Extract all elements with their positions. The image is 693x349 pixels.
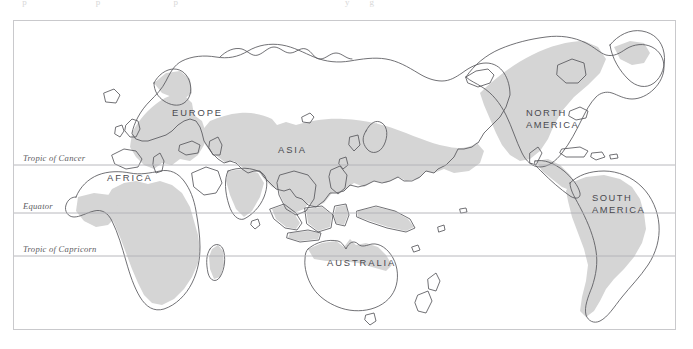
outline-siberia-coast <box>220 47 352 59</box>
latitude-label-tropic-of-cancer: Tropic of Cancer <box>23 153 86 163</box>
outline-pacific-island-2 <box>412 245 420 252</box>
continent-label-south-america-line1: SOUTH <box>592 192 632 203</box>
page-root: p p p y g <box>0 0 693 349</box>
outline-tasmania <box>365 313 376 325</box>
continent-label-asia: ASIA <box>278 144 307 155</box>
outline-new-zealand-south <box>415 291 432 313</box>
outline-sri-lanka <box>251 219 260 229</box>
world-map-figure: Tropic of Cancer Equator Tropic of Capri… <box>14 21 675 329</box>
outline-arabia <box>192 167 222 195</box>
outline-iceland <box>104 89 120 103</box>
continent-label-australia: AUSTRALIA <box>327 257 396 268</box>
continent-label-north-america-line2: AMERICA <box>526 119 579 130</box>
latitude-label-equator: Equator <box>22 201 53 211</box>
outline-cuba <box>560 147 588 157</box>
outline-pacific-island-1 <box>438 225 445 232</box>
latitude-label-tropic-of-capricorn: Tropic of Capricorn <box>23 244 97 254</box>
outline-pacific-island-3 <box>460 208 467 213</box>
shading-west-africa <box>76 193 118 227</box>
outline-puerto-rico <box>610 154 618 159</box>
outline-new-zealand-north <box>428 273 440 291</box>
continent-label-africa: AFRICA <box>107 172 153 183</box>
clipped-header-text-remnant: p p p y g <box>0 0 693 10</box>
continent-label-north-america-line1: NORTH <box>526 107 567 118</box>
shading-india <box>226 169 264 217</box>
range-shading-layer <box>76 41 650 317</box>
continent-label-south-america-line2: AMERICA <box>592 204 645 215</box>
continent-label-europe: EUROPE <box>172 107 223 118</box>
world-map-frame: Tropic of Cancer Equator Tropic of Capri… <box>13 20 676 330</box>
shading-north-america <box>480 41 606 161</box>
shading-sulawesi <box>334 205 348 225</box>
outline-hispaniola <box>591 152 605 160</box>
outline-ireland <box>115 125 124 137</box>
